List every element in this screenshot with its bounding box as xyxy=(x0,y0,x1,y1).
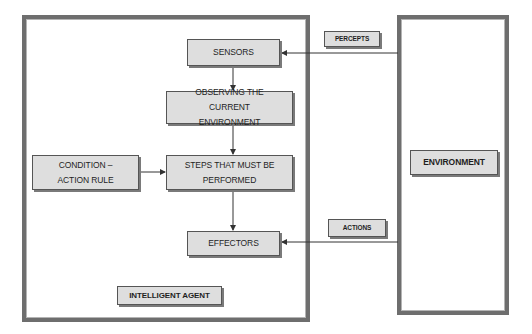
sensors-node: SENSORS xyxy=(187,39,280,66)
steps-to-perform-node: STEPS THAT MUST BE PERFORMED xyxy=(166,155,293,190)
actions-label: ACTIONS xyxy=(328,219,386,237)
observing-environment-node: OBSERVING THE CURRENT ENVIRONMENT xyxy=(166,91,293,124)
environment-label: ENVIRONMENT xyxy=(410,150,498,175)
condition-action-rule-node: CONDITION – ACTION RULE xyxy=(32,155,139,190)
effectors-node: EFFECTORS xyxy=(187,231,280,256)
intelligent-agent-label: INTELLIGENT AGENT xyxy=(117,286,222,305)
percepts-label: PERCEPTS xyxy=(324,31,380,47)
